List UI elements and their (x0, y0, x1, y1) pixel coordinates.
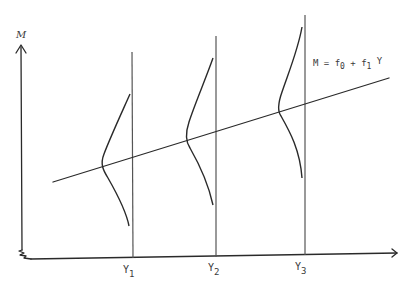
y-axis-label: M (15, 29, 27, 40)
equation-label: M = f0 + f1 Y (313, 56, 383, 71)
regression-line (53, 78, 389, 182)
y1-vertical-line (132, 52, 133, 258)
distribution-curve-y3 (279, 27, 303, 178)
axis-break-icon (19, 250, 31, 259)
x-tick-label-y1: Y1 (123, 264, 134, 279)
diagram-canvas: M M = f0 + f1 Y Y1 Y2 Y3 (0, 0, 414, 294)
y-axis: M (15, 29, 27, 250)
x-tick-label-y3: Y3 (295, 261, 306, 276)
x-axis (19, 249, 397, 259)
distribution-curve-y2 (186, 58, 213, 205)
x-tick-label-y2: Y2 (208, 262, 219, 277)
